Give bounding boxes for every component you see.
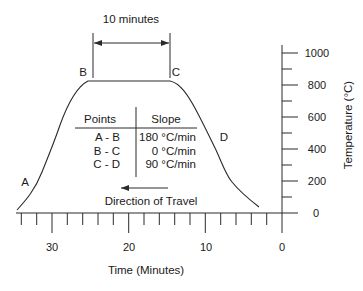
x-axis: 30 20 10 0 Time (Minutes)	[16, 213, 298, 276]
x-tick-label: 30	[46, 241, 58, 253]
duration-dimension: 10 minutes	[93, 13, 170, 78]
y-tick-label: 400	[308, 143, 326, 155]
table-row-slope: 90 °C/min	[145, 158, 196, 170]
duration-label: 10 minutes	[103, 13, 160, 25]
y-tick-label: 600	[308, 111, 326, 123]
y-tick-label: 800	[308, 79, 326, 91]
point-label-b: B	[79, 66, 87, 78]
x-axis-ticks	[21, 213, 266, 233]
x-tick-label: 0	[279, 241, 285, 253]
table-row-points: C - D	[93, 158, 120, 170]
y-tick-label: 200	[308, 175, 326, 187]
y-tick-label: 1000	[305, 47, 329, 59]
point-label-d: D	[220, 131, 228, 143]
heat-treatment-diagram: 10 minutes A B C D Points Slope A - B 18…	[0, 0, 363, 291]
y-axis-ticks	[282, 53, 298, 197]
y-tick-label: 0	[313, 207, 319, 219]
y-axis: 1000 800 600 400 200 0 Temperature (°C)	[282, 45, 354, 233]
table-row-slope: 180 °C/min	[139, 131, 196, 143]
table-row-points: B - C	[94, 145, 120, 157]
table-row-points: A - B	[95, 131, 120, 143]
direction-label: Direction of Travel	[105, 195, 198, 207]
table-row-slope: 0 °C/min	[152, 145, 196, 157]
point-label-a: A	[21, 176, 29, 188]
x-axis-title: Time (Minutes)	[108, 264, 184, 276]
slope-table: Points Slope A - B 180 °C/min B - C 0 °C…	[75, 107, 197, 177]
x-tick-label: 10	[200, 241, 212, 253]
table-header-points: Points	[84, 113, 116, 125]
point-label-c: C	[172, 66, 180, 78]
y-axis-title: Temperature (°C)	[342, 81, 354, 169]
x-tick-label: 20	[123, 241, 135, 253]
temperature-curve	[17, 81, 259, 210]
table-header-slope: Slope	[151, 113, 180, 125]
